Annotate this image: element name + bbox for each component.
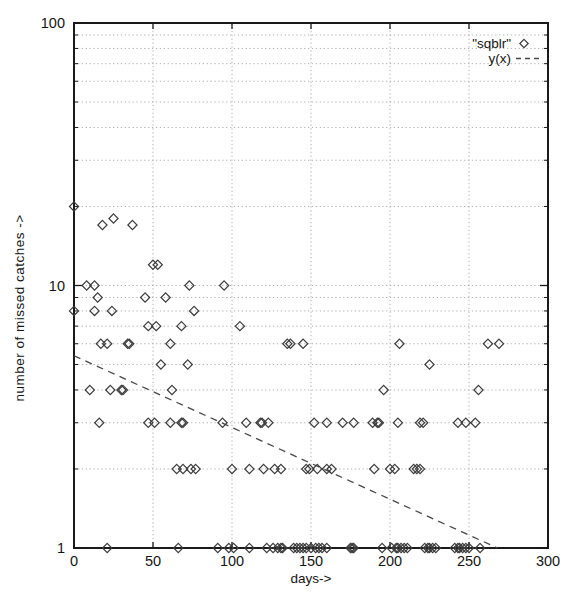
scatter-plot: 110100050100150200250300days->number of …	[0, 0, 571, 600]
legend-label-yx: y(x)	[489, 51, 512, 66]
x-tick-label-200: 200	[378, 553, 402, 569]
y-axis-title: number of missed catches ->	[12, 214, 27, 401]
y-tick-label-100: 100	[41, 15, 65, 31]
x-tick-label-300: 300	[536, 553, 560, 569]
y-tick-label-10: 10	[49, 278, 65, 294]
x-tick-label-0: 0	[70, 553, 78, 569]
y-tick-label-1: 1	[57, 540, 65, 556]
x-tick-label-150: 150	[299, 553, 323, 569]
legend-label-sqblr: "sqblr"	[472, 36, 511, 51]
x-axis-title: days->	[291, 571, 332, 586]
x-tick-label-250: 250	[457, 553, 481, 569]
x-tick-label-100: 100	[220, 553, 244, 569]
plot-background	[0, 0, 571, 600]
chart-canvas: 110100050100150200250300days->number of …	[0, 0, 571, 600]
x-tick-label-50: 50	[145, 553, 161, 569]
